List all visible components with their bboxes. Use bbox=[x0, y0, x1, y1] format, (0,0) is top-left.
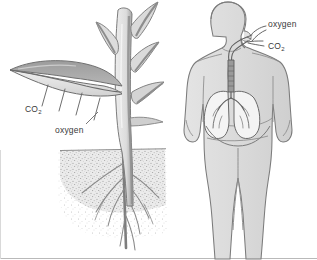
label-oxygen-human: oxygen bbox=[268, 20, 297, 29]
label-oxygen-plant: oxygen bbox=[55, 126, 84, 135]
soil-region bbox=[58, 148, 168, 238]
diagram-canvas bbox=[0, 0, 317, 260]
human-trachea bbox=[228, 60, 234, 92]
gas-exchange-figure: CO2 oxygen oxygen CO2 bbox=[0, 0, 317, 260]
label-co2-human: CO2 bbox=[268, 42, 285, 51]
label-co2-plant: CO2 bbox=[25, 105, 42, 114]
